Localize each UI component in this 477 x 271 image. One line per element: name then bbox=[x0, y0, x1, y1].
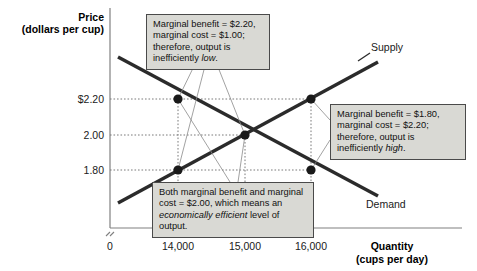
demand-curve-label: Demand bbox=[366, 198, 406, 210]
callout-inefficiently-high: Marginal benefit = $1.80, marginal cost … bbox=[330, 104, 466, 160]
supply-demand-chart: Price (dollars per cup) $2.20 2.00 1.80 … bbox=[0, 0, 477, 271]
leader-low-b bbox=[178, 62, 206, 170]
callout-inefficiently-low: Marginal benefit = $2.20, marginal cost … bbox=[146, 14, 270, 70]
axis-break-icon bbox=[106, 232, 114, 236]
callout-economically-efficient: Both marginal benefit and marginal cost … bbox=[152, 182, 314, 238]
callout-low-emphasis: low bbox=[201, 53, 215, 63]
x-tick-label-16000: 16,000 bbox=[295, 240, 327, 252]
callout-eff-line3: economically efficient level of output. bbox=[159, 210, 308, 233]
callout-low-line4-post: . bbox=[215, 53, 218, 63]
callout-low-line2: marginal cost = $1.00; bbox=[153, 30, 264, 41]
callout-low-line1: Marginal benefit = $2.20, bbox=[153, 19, 264, 30]
supply-curve-label: Supply bbox=[371, 41, 404, 53]
callout-low-line4-pre: inefficiently bbox=[153, 53, 201, 63]
leader-eff-a bbox=[238, 135, 245, 182]
callout-high-line3: therefore, output is bbox=[337, 132, 460, 143]
callout-eff-line1: Both marginal benefit and marginal bbox=[159, 187, 308, 198]
callout-high-line1: Marginal benefit = $1.80, bbox=[337, 109, 460, 120]
point-16000-180 bbox=[306, 165, 315, 174]
y-tick-label-200: 2.00 bbox=[84, 129, 105, 141]
x-tick-label-14000: 14,000 bbox=[162, 240, 194, 252]
callout-high-line2: marginal cost = $2.20; bbox=[337, 120, 460, 131]
point-equilibrium-15000-200 bbox=[240, 130, 249, 139]
x-axis-title: Quantity bbox=[371, 240, 414, 252]
callout-eff-emphasis: economically efficient bbox=[159, 210, 247, 220]
callout-low-line4: inefficiently low. bbox=[153, 53, 264, 64]
point-14000-180 bbox=[173, 165, 182, 174]
point-16000-220 bbox=[306, 94, 315, 103]
callout-high-line4: inefficiently high. bbox=[337, 143, 460, 154]
x-tick-label-0: 0 bbox=[107, 240, 113, 252]
x-tick-label-15000: 15,000 bbox=[229, 240, 261, 252]
point-14000-220 bbox=[173, 94, 182, 103]
callout-high-line4-pre: inefficiently bbox=[337, 143, 385, 153]
y-tick-label-180: 1.80 bbox=[84, 164, 105, 176]
callout-eff-line2: cost = $2.00, which means an bbox=[159, 198, 308, 209]
y-axis-subtitle: (dollars per cup) bbox=[22, 23, 104, 35]
callout-high-line4-post: . bbox=[403, 143, 406, 153]
x-axis-subtitle: (cups per day) bbox=[356, 253, 428, 265]
y-axis-title: Price bbox=[78, 11, 104, 23]
callout-low-line3: therefore, output is bbox=[153, 42, 264, 53]
supply-label-tick bbox=[358, 53, 370, 61]
callout-high-emphasis: high bbox=[385, 143, 403, 153]
y-tick-label-220: $2.20 bbox=[78, 93, 104, 105]
